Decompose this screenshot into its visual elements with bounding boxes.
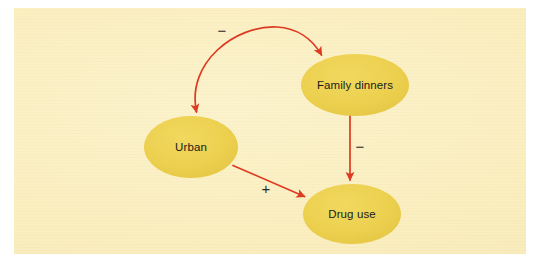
node-urban-label: Urban xyxy=(175,141,207,153)
figure-root: Urban Family dinners Drug use − − + xyxy=(0,0,543,271)
node-layer: Urban Family dinners Drug use xyxy=(144,54,409,244)
edge-sign-family-dinners-drug-use: − xyxy=(356,138,365,155)
node-urban[interactable]: Urban xyxy=(144,116,238,178)
node-family-dinners-label: Family dinners xyxy=(317,79,393,91)
edge-urban-family-dinners xyxy=(195,27,321,112)
node-drug-use[interactable]: Drug use xyxy=(303,184,401,244)
node-drug-use-label: Drug use xyxy=(328,208,375,220)
node-family-dinners[interactable]: Family dinners xyxy=(301,54,409,116)
edge-sign-urban-family-dinners: − xyxy=(218,22,227,39)
edge-sign-urban-drug-use: + xyxy=(262,180,271,197)
diagram-canvas: Urban Family dinners Drug use − − + xyxy=(0,0,543,271)
